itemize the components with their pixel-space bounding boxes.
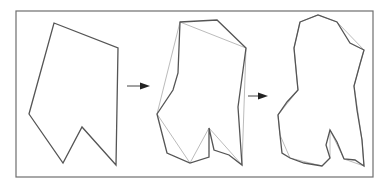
diagram-canvas <box>0 0 385 186</box>
stage-3-smooth-polygon <box>278 15 364 166</box>
stage-2-outline <box>157 20 246 165</box>
stage-3-reference-outline <box>278 15 364 166</box>
stage-1-outline <box>29 23 118 165</box>
diagram-svg <box>0 0 385 186</box>
diagram-frame <box>16 11 373 177</box>
stage-1-coarse-polygon <box>29 23 118 165</box>
stage-2-refined-polygon <box>157 20 246 165</box>
arrow-1-icon <box>127 83 150 90</box>
arrow-2-icon <box>248 93 268 100</box>
stage-3-outline <box>278 15 364 166</box>
